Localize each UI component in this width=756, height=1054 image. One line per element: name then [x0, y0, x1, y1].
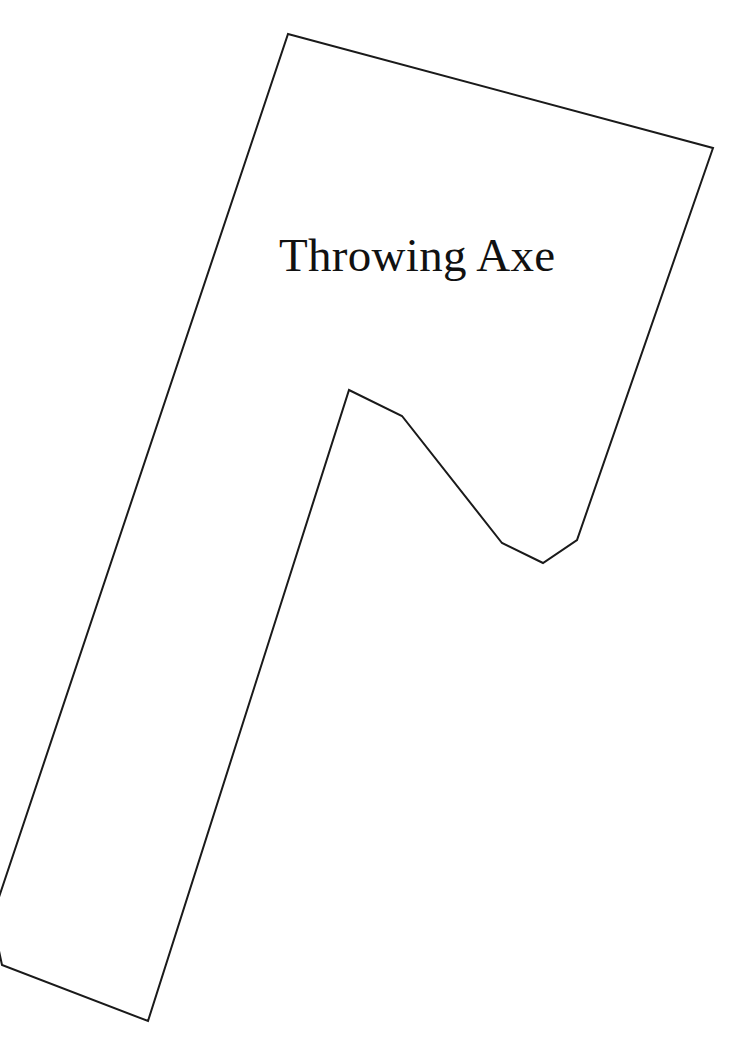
throwing-axe-diagram — [0, 0, 756, 1054]
page-title: Throwing Axe — [279, 229, 555, 281]
page-canvas: Throwing Axe — [0, 0, 756, 1054]
throwing-axe-outline-shape — [0, 34, 713, 1021]
